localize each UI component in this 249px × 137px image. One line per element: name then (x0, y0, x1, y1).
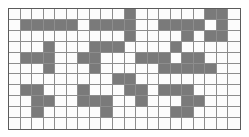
grid-cell-empty (21, 118, 33, 129)
grid-cell-empty (32, 42, 44, 53)
grid-cell-filled (90, 20, 102, 31)
grid-cell-empty (90, 107, 102, 118)
grid-cell-empty (9, 85, 21, 96)
grid-cell-filled (159, 85, 171, 96)
grid-cell-empty (32, 74, 44, 85)
grid-cell-empty (228, 74, 240, 85)
grid-cell-empty (136, 118, 148, 129)
grid-cell-filled (217, 31, 229, 42)
grid-cell-filled (182, 96, 194, 107)
grid-cell-empty (32, 64, 44, 75)
grid-cell-filled (171, 42, 183, 53)
grid-cell-empty (205, 107, 217, 118)
grid-cell-empty (90, 31, 102, 42)
grid-cell-filled (125, 9, 137, 20)
grid-cell-empty (194, 74, 206, 85)
grid-cell-empty (44, 74, 56, 85)
grid-cell-empty (182, 74, 194, 85)
grid-cell-empty (67, 118, 79, 129)
grid-cell-filled (171, 20, 183, 31)
grid-table (9, 9, 240, 129)
grid-cell-empty (78, 9, 90, 20)
grid-cell-empty (228, 20, 240, 31)
grid-cell-empty (136, 31, 148, 42)
grid-cell-empty (55, 118, 67, 129)
grid-cell-empty (101, 118, 113, 129)
grid-cell-filled (44, 42, 56, 53)
grid-cell-empty (148, 96, 160, 107)
grid-cell-empty (90, 9, 102, 20)
grid-cell-empty (55, 9, 67, 20)
grid-cell-empty (78, 20, 90, 31)
grid-cell-filled (67, 20, 79, 31)
grid-cell-filled (217, 9, 229, 20)
grid-cell-empty (67, 96, 79, 107)
grid-cell-empty (217, 85, 229, 96)
grid-cell-filled (90, 53, 102, 64)
grid-cell-empty (44, 9, 56, 20)
grid-cell-filled (159, 20, 171, 31)
grid-cell-empty (171, 31, 183, 42)
grid-cell-filled (44, 96, 56, 107)
grid-cell-empty (159, 42, 171, 53)
grid-cell-empty (21, 64, 33, 75)
grid-cell-empty (113, 53, 125, 64)
grid-cell-empty (113, 118, 125, 129)
grid-cell-empty (101, 85, 113, 96)
grid-cell-filled (90, 96, 102, 107)
grid-cell-empty (78, 42, 90, 53)
grid-cell-empty (205, 42, 217, 53)
grid-cell-filled (90, 64, 102, 75)
grid-cell-filled (55, 20, 67, 31)
grid-cell-filled (205, 9, 217, 20)
grid-cell-filled (101, 42, 113, 53)
grid-cell-filled (171, 107, 183, 118)
grid-cell-filled (78, 96, 90, 107)
grid-cell-empty (32, 118, 44, 129)
grid-cell-empty (113, 31, 125, 42)
grid-cell-filled (159, 64, 171, 75)
grid-cell-empty (136, 9, 148, 20)
grid-cell-empty (55, 42, 67, 53)
grid-cell-empty (228, 85, 240, 96)
grid-cell-empty (228, 31, 240, 42)
grid-cell-empty (101, 53, 113, 64)
grid-cell-empty (21, 107, 33, 118)
grid-cell-empty (171, 9, 183, 20)
grid-cell-filled (136, 53, 148, 64)
grid-cell-empty (136, 20, 148, 31)
grid-cell-filled (136, 85, 148, 96)
grid-cell-empty (101, 31, 113, 42)
grid-cell-empty (78, 118, 90, 129)
grid-cell-empty (194, 42, 206, 53)
grid-cell-empty (101, 9, 113, 20)
page-root (0, 0, 249, 137)
grid-cell-empty (217, 118, 229, 129)
grid-cell-empty (194, 31, 206, 42)
grid-cell-empty (21, 31, 33, 42)
grid-cell-filled (32, 53, 44, 64)
grid-cell-empty (228, 53, 240, 64)
grid-cell-filled (171, 64, 183, 75)
grid-cell-empty (101, 64, 113, 75)
grid-cell-filled (194, 64, 206, 75)
grid-cell-empty (171, 74, 183, 85)
grid-cell-empty (67, 42, 79, 53)
grid-cell-empty (125, 96, 137, 107)
grid-cell-empty (32, 9, 44, 20)
grid-cell-empty (125, 42, 137, 53)
grid-cell-empty (90, 118, 102, 129)
grid-cell-empty (67, 64, 79, 75)
grid-cell-empty (148, 74, 160, 85)
grid-cell-empty (55, 85, 67, 96)
grid-cell-empty (125, 118, 137, 129)
grid-cell-filled (44, 64, 56, 75)
grid-cell-empty (205, 74, 217, 85)
grid-cell-empty (171, 96, 183, 107)
grid-cell-filled (194, 53, 206, 64)
grid-cell-empty (136, 107, 148, 118)
grid-cell-filled (32, 96, 44, 107)
grid-cell-filled (148, 53, 160, 64)
grid-cell-empty (78, 64, 90, 75)
grid-cell-filled (21, 53, 33, 64)
